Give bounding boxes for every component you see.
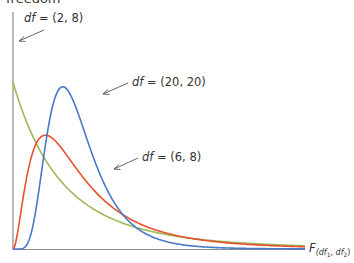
label-df-2-8: df = (2, 8) [24, 11, 83, 25]
f-distribution-chart: df = (2, 8) df = (20, 20) df = (6, 8) F(… [0, 0, 354, 263]
label-df-6-8: df = (6, 8) [142, 150, 201, 164]
curve-df-2-8 [13, 82, 305, 245]
x-axis-label: F(df1, df2) [309, 241, 350, 258]
curve-df-20-20 [13, 87, 305, 249]
arrow-df-6-8 [114, 158, 138, 170]
label-df-20-20: df = (20, 20) [132, 75, 206, 89]
arrow-df-2-8 [19, 30, 44, 42]
arrow-df-20-20 [103, 83, 128, 95]
